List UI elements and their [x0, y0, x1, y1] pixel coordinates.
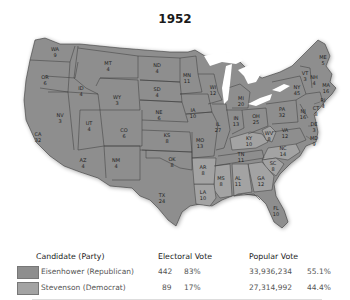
state-label-fl: FL10 — [273, 206, 279, 217]
state-label-nm: NM4 — [112, 158, 120, 169]
state-label-ms: MS8 — [217, 176, 225, 187]
state-electoral-votes: 4 — [310, 80, 318, 86]
state-label-co: CO6 — [120, 128, 127, 139]
popular-pct: 44.4% — [307, 283, 331, 292]
state-label-tn: TN11 — [238, 152, 245, 163]
state-label-wv: WV8 — [265, 131, 273, 142]
state-label-wa: WA9 — [51, 47, 59, 58]
state-electoral-votes: 8 — [270, 166, 277, 172]
state-label-in: IN13 — [233, 116, 239, 127]
state-label-tx: TX24 — [159, 193, 165, 204]
state-label-md: MD9 — [310, 136, 318, 147]
state-label-ct: CT8 — [313, 106, 320, 117]
state-electoral-votes: 14 — [279, 151, 286, 157]
state-electoral-votes: 4 — [86, 126, 93, 132]
state-electoral-votes: 4 — [321, 103, 326, 109]
state-electoral-votes: 6 — [120, 133, 127, 139]
state-label-ar: AR8 — [200, 165, 207, 176]
state-label-sd: SD4 — [153, 87, 160, 98]
state-label-de: DE3 — [310, 122, 317, 133]
candidate-name: Eisenhower (Republican) — [41, 267, 134, 276]
state-label-ks: KS8 — [164, 133, 170, 144]
state-electoral-votes: 9 — [310, 141, 318, 147]
state-label-ia: IA10 — [190, 108, 196, 119]
state-electoral-votes: 3 — [113, 100, 121, 106]
state-label-ny: NY45 — [294, 85, 301, 96]
state-label-nj: NJ16 — [300, 109, 306, 120]
state-electoral-votes: 11 — [238, 157, 245, 163]
state-electoral-votes: 8 — [313, 111, 320, 117]
state-label-ok: OK8 — [168, 157, 175, 168]
state-electoral-votes: 4 — [80, 163, 87, 169]
state-electoral-votes: 25 — [252, 119, 260, 125]
state-electoral-votes: 3 — [56, 118, 63, 124]
democrat-swatch — [17, 282, 39, 295]
electoral-votes: 89 — [162, 283, 172, 292]
state-label-az: AZ4 — [80, 158, 87, 169]
popular-votes: 27,314,992 — [249, 283, 292, 292]
state-electoral-votes: 8 — [164, 138, 170, 144]
state-electoral-votes: 10 — [273, 211, 279, 217]
state-label-al: AL11 — [235, 176, 241, 187]
republican-swatch — [17, 266, 39, 279]
state-label-nh: NH4 — [310, 75, 318, 86]
state-label-ky: KY10 — [246, 136, 252, 147]
state-label-ga: GA12 — [257, 176, 264, 187]
state-label-nv: NV3 — [56, 113, 63, 124]
state-electoral-votes: 20 — [238, 101, 244, 107]
state-electoral-votes: 10 — [246, 141, 252, 147]
state-label-il: IL27 — [215, 122, 221, 133]
electoral-pct: 17% — [184, 283, 201, 292]
state-electoral-votes: 4 — [153, 92, 160, 98]
state-label-or: OR6 — [41, 75, 48, 86]
candidate-name: Stevenson (Democrat) — [41, 283, 126, 292]
state-label-ca: CA32 — [35, 132, 42, 143]
state-label-me: ME5 — [319, 55, 326, 66]
state-electoral-votes: 11 — [183, 78, 191, 84]
state-label-nc: NC14 — [279, 146, 286, 157]
state-electoral-votes: 10 — [200, 195, 206, 201]
state-label-va: VA12 — [282, 128, 289, 139]
state-electoral-votes: 6 — [156, 115, 163, 121]
state-electoral-votes: 4 — [153, 68, 161, 74]
state-electoral-votes: 3 — [302, 76, 308, 82]
us-electoral-map — [0, 0, 350, 240]
state-electoral-votes: 8 — [265, 136, 273, 142]
state-label-ne: NE6 — [156, 110, 163, 121]
state-electoral-votes: 27 — [215, 127, 221, 133]
state-electoral-votes: 4 — [112, 163, 120, 169]
state-electoral-votes: 24 — [159, 198, 165, 204]
state-electoral-votes: 11 — [235, 181, 241, 187]
state-label-id: ID4 — [78, 86, 83, 97]
state-label-nd: ND4 — [153, 63, 161, 74]
electoral-votes: 442 — [158, 267, 172, 276]
state-label-pa: PA32 — [279, 107, 285, 118]
state-label-oh: OH25 — [252, 114, 260, 125]
state-electoral-votes: 8 — [200, 170, 207, 176]
popular-votes: 33,936,234 — [249, 267, 292, 276]
state-label-mt: MT4 — [104, 61, 111, 72]
state-electoral-votes: 32 — [279, 112, 285, 118]
state-label-la: LA10 — [200, 190, 206, 201]
legend: Candidate (Party) Electoral Vote Popular… — [0, 245, 350, 300]
state-electoral-votes: 16 — [322, 88, 330, 94]
state-electoral-votes: 32 — [35, 137, 42, 143]
header-electoral: Electoral Vote — [158, 252, 212, 261]
state-electoral-votes: 6 — [41, 80, 48, 86]
state-electoral-votes: 45 — [294, 90, 301, 96]
electoral-pct: 83% — [184, 267, 201, 276]
state-label-sc: SC8 — [270, 161, 277, 172]
state-electoral-votes: 4 — [78, 91, 83, 97]
state-electoral-votes: 13 — [233, 121, 239, 127]
state-label-mo: MO13 — [196, 138, 204, 149]
header-popular: Popular Vote — [249, 252, 298, 261]
legend-row-stevenson: Stevenson (Democrat) 89 17% 27,314,992 4… — [0, 282, 350, 294]
state-electoral-votes: 16 — [300, 114, 306, 120]
state-electoral-votes: 10 — [190, 113, 196, 119]
state-electoral-votes: 8 — [168, 162, 175, 168]
state-electoral-votes: 12 — [210, 90, 216, 96]
state-electoral-votes: 9 — [51, 52, 59, 58]
header-candidate: Candidate (Party) — [36, 252, 104, 261]
state-label-mn: MN11 — [183, 73, 191, 84]
state-label-mi: MI20 — [238, 96, 244, 107]
